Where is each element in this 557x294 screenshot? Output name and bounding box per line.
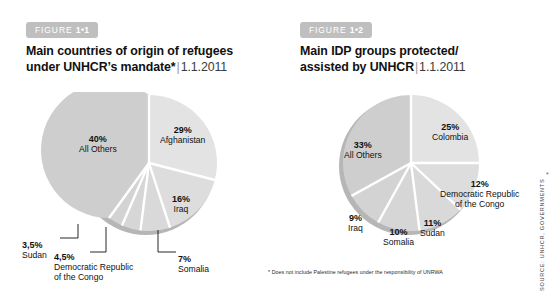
figure-title-1: Main countries of origin of refugees und… — [26, 44, 280, 75]
label-sudan-2: 11% Sudan — [420, 218, 445, 238]
figure-title-2-date: 1.1.2011 — [419, 60, 466, 74]
source-note-container: * SOURCE: UNHCR, GOVERNMENTS — [545, 171, 555, 291]
label-all-others-name: All Others — [79, 144, 117, 154]
figure-badge-label: FIGURE — [35, 25, 73, 35]
label-drc-name-line1: Democratic Republic — [54, 262, 133, 272]
label-drc: 4,5% Democratic Republic of the Congo — [54, 252, 133, 283]
label-colombia-pct: 25% — [432, 122, 468, 132]
label-sudan-name: Sudan — [22, 250, 47, 260]
label-drc-2-pct: 12% — [440, 179, 519, 189]
label-all-others-2-name: All Others — [344, 150, 382, 160]
label-drc-2-name-line1: Democratic Republic — [440, 189, 519, 199]
figure-title-2: Main IDP groups protected/ assisted by U… — [300, 44, 554, 75]
pie-chart-1 — [18, 92, 280, 267]
label-all-others-pct: 40% — [79, 134, 117, 144]
pie-slices-1 — [41, 92, 217, 231]
label-sudan-2-name: Sudan — [420, 228, 445, 238]
label-sudan: 3,5% Sudan — [22, 240, 47, 260]
label-somalia-pct: 7% — [178, 254, 209, 264]
label-sudan-pct: 3,5% — [22, 240, 47, 250]
label-iraq: 16% Iraq — [172, 194, 190, 214]
label-colombia: 25% Colombia — [432, 122, 468, 142]
label-drc-pct: 4,5% — [54, 252, 133, 262]
label-all-others-2-pct: 33% — [344, 140, 382, 150]
infographic-page: FIGURE 1•1 Main countries of origin of r… — [0, 0, 557, 294]
pie-slices-2 — [343, 95, 479, 231]
figure-badge-1: FIGURE 1•1 — [26, 22, 98, 38]
label-somalia-2-name: Somalia — [383, 237, 414, 247]
label-all-others-2: 33% All Others — [344, 140, 382, 160]
source-asterisk: * — [546, 171, 549, 178]
label-afghanistan: 29% Afghanistan — [160, 125, 205, 145]
leader-line-drc — [90, 227, 106, 252]
footnote: * Does not include Palestine refugees un… — [268, 269, 443, 276]
label-somalia-name: Somalia — [178, 264, 209, 274]
label-iraq-pct: 16% — [172, 194, 190, 204]
label-somalia-2-pct: 10% — [383, 227, 414, 237]
figure-panel-2: FIGURE 1•2 Main IDP groups protected/ as… — [292, 0, 554, 294]
figure-badge-2: FIGURE 1•2 — [300, 22, 372, 38]
label-somalia-2: 10% Somalia — [383, 227, 414, 247]
figure-title-2-line2: assisted by UNHCR — [300, 60, 414, 74]
leader-line-sudan — [60, 224, 78, 238]
label-afghanistan-pct: 29% — [160, 125, 205, 135]
figure-badge-number-2: 1•2 — [350, 25, 364, 35]
figure-title-date: 1.1.2011 — [181, 60, 228, 74]
source-note: SOURCE: UNHCR, GOVERNMENTS — [539, 179, 545, 291]
label-afghanistan-name: Afghanistan — [160, 135, 205, 145]
pie-chart-1-svg — [18, 92, 280, 267]
label-iraq-2-pct: 9% — [348, 213, 363, 223]
figure-title-line1: Main countries of origin of refugees — [26, 44, 233, 58]
figure-title-2-line1: Main IDP groups protected/ — [300, 44, 458, 58]
label-drc-name-line2: of the Congo — [54, 272, 103, 282]
label-iraq-name: Iraq — [174, 204, 189, 214]
label-drc-2: 12% Democratic Republic of the Congo — [440, 179, 519, 210]
figure-title-line2: under UNHCR’s mandate* — [26, 60, 176, 74]
figure-panel-1: FIGURE 1•1 Main countries of origin of r… — [18, 0, 280, 294]
label-iraq-2-name: Iraq — [348, 223, 363, 233]
figure-badge-number: 1•1 — [76, 25, 90, 35]
label-iraq-2: 9% Iraq — [348, 213, 363, 233]
figure-badge-label-2: FIGURE — [309, 25, 347, 35]
label-all-others: 40% All Others — [79, 134, 117, 154]
label-drc-2-name-line2: of the Congo — [455, 199, 504, 209]
label-sudan-2-pct: 11% — [420, 218, 445, 228]
label-somalia: 7% Somalia — [178, 254, 209, 274]
label-colombia-name: Colombia — [432, 132, 468, 142]
